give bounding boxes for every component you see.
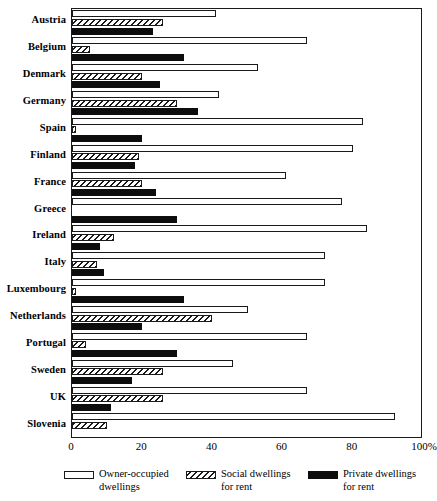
legend-label-private: Private dwellings for rent <box>343 468 416 493</box>
x-tick-0: 0 <box>68 440 74 452</box>
x-tick-20: 20 <box>136 440 147 452</box>
chart-legend: Owner-occupied dwellingsSocial dwellings… <box>64 468 430 501</box>
value-axis: 020406080100% <box>71 438 422 464</box>
legend-label-social: Social dwellings for rent <box>221 468 291 493</box>
category-label-germany: Germany <box>0 95 66 106</box>
legend-label-owner: Owner-occupied dwellings <box>99 468 169 493</box>
category-label-finland: Finland <box>0 149 66 160</box>
legend-item-social: Social dwellings for rent <box>186 468 308 501</box>
category-label-slovenia: Slovenia <box>0 418 66 429</box>
category-label-belgium: Belgium <box>0 41 66 52</box>
black-swatch <box>308 471 338 479</box>
category-label-austria: Austria <box>0 14 66 25</box>
hatched-swatch <box>186 471 216 479</box>
category-label-denmark: Denmark <box>0 68 66 79</box>
category-label-ireland: Ireland <box>0 229 66 240</box>
x-tick-100: 100% <box>411 440 437 452</box>
category-label-spain: Spain <box>0 122 66 133</box>
x-tick-40: 40 <box>206 440 217 452</box>
category-label-greece: Greece <box>0 203 66 214</box>
category-label-uk: UK <box>0 391 66 402</box>
legend-item-owner: Owner-occupied dwellings <box>64 468 186 501</box>
category-label-italy: Italy <box>0 256 66 267</box>
category-axis-labels: AustriaBelgiumDenmarkGermanySpainFinland… <box>0 8 430 438</box>
x-tick-80: 80 <box>346 440 357 452</box>
category-label-france: France <box>0 176 66 187</box>
category-label-portugal: Portugal <box>0 337 66 348</box>
category-label-netherlands: Netherlands <box>0 310 66 321</box>
category-label-sweden: Sweden <box>0 364 66 375</box>
x-tick-60: 60 <box>276 440 287 452</box>
white-outline-swatch <box>64 471 94 479</box>
legend-item-private: Private dwellings for rent <box>308 468 430 501</box>
category-label-luxembourg: Luxembourg <box>0 283 66 294</box>
